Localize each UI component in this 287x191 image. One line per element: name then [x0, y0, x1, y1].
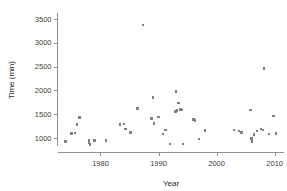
data-point	[176, 109, 178, 111]
data-point	[142, 24, 144, 26]
data-point	[262, 129, 264, 131]
data-point	[263, 67, 265, 69]
data-point	[105, 139, 107, 141]
y-tick-label: 3000	[35, 38, 52, 47]
data-point	[76, 123, 78, 125]
data-point	[157, 116, 159, 118]
data-point	[250, 137, 252, 139]
y-axis: 100015002000250030003500	[35, 13, 58, 146]
y-tick-label: 2000	[35, 86, 52, 95]
y-tick-label: 1000	[35, 134, 52, 143]
data-point	[164, 129, 166, 131]
x-tick-label: 2000	[208, 159, 225, 168]
data-point	[119, 123, 121, 125]
data-point	[268, 133, 270, 135]
plot-canvas: 100015002000250030003500 198019902000201…	[0, 0, 287, 191]
data-points-layer	[64, 24, 277, 146]
data-point	[124, 128, 126, 130]
data-point	[204, 129, 206, 131]
y-tick-label: 1500	[35, 110, 52, 119]
data-point	[169, 143, 171, 145]
y-tick-label: 2500	[35, 62, 52, 71]
data-point	[194, 119, 196, 121]
data-point	[251, 140, 253, 142]
data-point	[78, 116, 80, 118]
data-point	[233, 129, 235, 131]
data-point	[129, 131, 131, 133]
data-point	[74, 132, 76, 134]
y-tick-label: 3500	[35, 15, 52, 24]
data-point	[64, 140, 66, 142]
data-point	[93, 139, 95, 141]
y-tick-group: 100015002000250030003500	[35, 15, 58, 143]
x-axis-title: Year	[163, 179, 180, 188]
data-point	[181, 109, 183, 111]
data-point	[249, 109, 251, 111]
data-point	[177, 102, 179, 104]
x-axis: 1980199020002010	[58, 153, 285, 168]
scatter-chart: 100015002000250030003500 198019902000201…	[0, 0, 287, 191]
data-point	[88, 139, 90, 141]
data-point	[182, 143, 184, 145]
data-point	[150, 117, 152, 119]
data-point	[240, 131, 242, 133]
data-point	[260, 128, 262, 130]
data-point	[175, 90, 177, 92]
x-tick-label: 2010	[266, 159, 283, 168]
data-point	[89, 143, 91, 145]
data-point	[256, 130, 258, 132]
data-point	[272, 115, 274, 117]
data-point	[238, 130, 240, 132]
data-point	[162, 133, 164, 135]
data-point	[136, 107, 138, 109]
data-point	[253, 133, 255, 135]
data-point	[275, 132, 277, 134]
x-tick-label: 1980	[92, 159, 109, 168]
data-point	[153, 122, 155, 124]
data-point	[123, 123, 125, 125]
x-tick-group: 1980199020002010	[92, 153, 283, 168]
data-point	[70, 132, 72, 134]
y-axis-title: Time (min)	[7, 61, 16, 99]
data-point	[152, 96, 154, 98]
x-tick-label: 1990	[150, 159, 167, 168]
data-point	[198, 138, 200, 140]
